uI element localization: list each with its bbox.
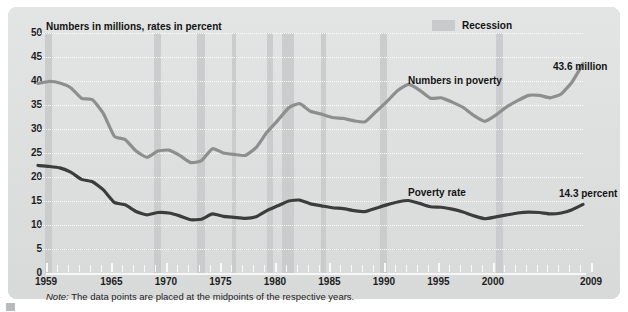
x-axis-tick xyxy=(253,265,254,272)
x-axis-tick xyxy=(264,265,265,272)
x-axis-tick xyxy=(188,265,189,272)
x-axis-tick xyxy=(460,265,461,272)
end-value-label-numbers: 43.6 million xyxy=(553,61,607,72)
x-axis-tick xyxy=(79,265,80,272)
chart-figure: Numbers in millions, rates in percent Re… xyxy=(8,7,620,299)
x-axis-tick xyxy=(384,263,386,272)
x-axis-tick xyxy=(395,265,396,272)
x-axis-tick-label: 1980 xyxy=(264,276,286,287)
x-axis-tick-label: 2009 xyxy=(580,276,602,287)
x-axis-tick-label: 1975 xyxy=(209,276,231,287)
x-axis-tick xyxy=(166,263,168,272)
x-axis-tick xyxy=(101,265,102,272)
end-value-label-rate: 14.3 percent xyxy=(559,188,617,199)
x-axis-tick xyxy=(57,265,58,272)
x-axis-tick xyxy=(231,265,232,272)
x-axis-tick xyxy=(133,265,134,272)
legend: Recession xyxy=(432,20,512,31)
x-axis-tick xyxy=(90,265,91,272)
figure-note: Note: The data points are placed at the … xyxy=(46,291,354,302)
x-axis-tick xyxy=(340,265,341,272)
x-axis-tick xyxy=(275,263,277,272)
x-axis-tick xyxy=(308,265,309,272)
plot-area xyxy=(38,33,583,273)
x-axis-tick-label: 1959 xyxy=(35,276,57,287)
chart-title: Numbers in millions, rates in percent xyxy=(46,21,222,32)
x-axis-tick xyxy=(319,265,320,272)
series-label-numbers-in-poverty: Numbers in poverty xyxy=(408,75,502,86)
x-axis-tick xyxy=(537,265,538,272)
x-axis-tick-label: 1995 xyxy=(427,276,449,287)
x-axis-tick xyxy=(155,265,156,272)
x-axis-tick xyxy=(428,265,429,272)
x-axis-tick xyxy=(220,263,222,272)
x-axis-tick xyxy=(177,265,178,272)
x-axis-tick xyxy=(199,265,200,272)
x-axis-tick xyxy=(68,265,69,272)
legend-label-recession: Recession xyxy=(462,20,512,31)
x-axis-tick-label: 1990 xyxy=(373,276,395,287)
x-axis-tick xyxy=(210,265,211,272)
corner-mark xyxy=(6,303,15,311)
x-axis-tick xyxy=(515,265,516,272)
x-axis-tick xyxy=(329,263,331,272)
x-axis-tick-label: 2000 xyxy=(482,276,504,287)
x-axis-tick xyxy=(122,265,123,272)
x-axis-tick xyxy=(111,263,113,272)
x-axis-tick xyxy=(526,265,527,272)
note-prefix: Note: xyxy=(46,291,69,302)
x-axis-tick xyxy=(482,265,483,272)
x-axis-tick xyxy=(438,263,440,272)
x-axis-tick xyxy=(297,265,298,272)
x-axis-tick xyxy=(373,265,374,272)
x-axis-tick xyxy=(286,265,287,272)
series-lines xyxy=(38,33,583,273)
recession-swatch-icon xyxy=(432,20,455,31)
x-axis-tick xyxy=(46,263,48,272)
series-line-poverty-rate xyxy=(38,165,583,219)
x-axis-tick xyxy=(362,265,363,272)
x-axis-tick-label: 1985 xyxy=(318,276,340,287)
x-axis-tick xyxy=(569,265,570,272)
x-axis-tick xyxy=(547,265,548,272)
note-text: The data points are placed at the midpoi… xyxy=(71,291,354,302)
x-axis-tick xyxy=(417,265,418,272)
x-axis-tick xyxy=(144,265,145,272)
x-axis-tick xyxy=(591,263,593,272)
x-axis-tick xyxy=(493,263,495,272)
x-axis-tick xyxy=(580,265,581,272)
x-axis-tick xyxy=(504,265,505,272)
x-axis-tick xyxy=(471,265,472,272)
x-axis-tick-label: 1970 xyxy=(155,276,177,287)
x-axis-tick-label: 1965 xyxy=(100,276,122,287)
x-axis-tick xyxy=(351,265,352,272)
series-label-poverty-rate: Poverty rate xyxy=(408,187,466,198)
chart-canvas: Numbers in millions, rates in percent Re… xyxy=(8,7,620,299)
x-axis-tick xyxy=(558,265,559,272)
x-axis-tick xyxy=(242,265,243,272)
x-axis-tick xyxy=(406,265,407,272)
x-axis-line xyxy=(46,273,586,275)
x-axis-tick xyxy=(449,265,450,272)
